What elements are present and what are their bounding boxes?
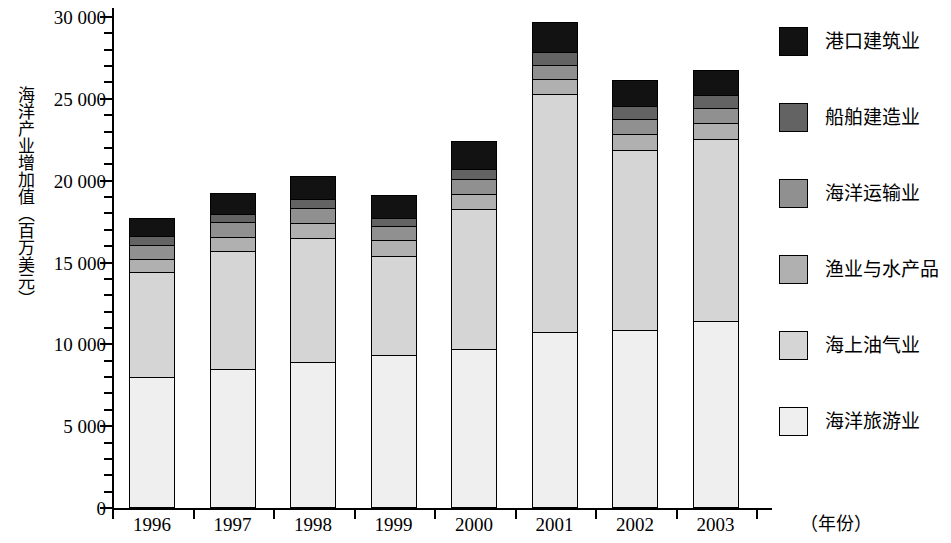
bar-2000[interactable] bbox=[451, 141, 497, 508]
y-axis-minor-tick bbox=[104, 131, 112, 133]
y-axis-minor-tick bbox=[104, 392, 112, 394]
bar-segment[interactable] bbox=[290, 223, 336, 238]
bar-segment[interactable] bbox=[371, 218, 417, 226]
x-axis-title: （年份） bbox=[800, 513, 872, 535]
bar-segment[interactable] bbox=[532, 332, 578, 508]
y-axis-minor-tick bbox=[104, 114, 112, 116]
bar-2003[interactable] bbox=[693, 70, 739, 508]
bar-segment[interactable] bbox=[210, 193, 256, 214]
bar-segment[interactable] bbox=[290, 238, 336, 362]
bar-segment[interactable] bbox=[210, 369, 256, 508]
bar-segment[interactable] bbox=[451, 209, 497, 350]
y-axis-tick-label: 30 000 bbox=[20, 8, 106, 27]
bar-segment[interactable] bbox=[371, 256, 417, 355]
x-axis-tick-label: 2000 bbox=[434, 514, 514, 536]
bar-segment[interactable] bbox=[451, 194, 497, 209]
legend-item-label: 港口建筑业 bbox=[825, 32, 920, 51]
bar-segment[interactable] bbox=[612, 119, 658, 134]
bar-segment[interactable] bbox=[532, 65, 578, 80]
bar-segment[interactable] bbox=[532, 94, 578, 332]
y-axis-minor-tick bbox=[104, 474, 112, 476]
y-axis-line bbox=[112, 8, 114, 508]
bar-segment[interactable] bbox=[210, 251, 256, 369]
y-axis-tick-label: 20 000 bbox=[20, 172, 106, 191]
y-axis-minor-tick bbox=[104, 245, 112, 247]
y-axis-tick-labels: 05 00010 00015 00020 00025 00030 000 bbox=[20, 0, 106, 543]
bar-segment[interactable] bbox=[290, 362, 336, 508]
legend-item[interactable]: 海洋旅游业 bbox=[779, 406, 920, 436]
bar-segment[interactable] bbox=[693, 95, 739, 108]
legend-swatch-icon bbox=[779, 331, 808, 360]
bar-segment[interactable] bbox=[532, 22, 578, 52]
bar-segment[interactable] bbox=[693, 123, 739, 139]
bar-segment[interactable] bbox=[612, 150, 658, 331]
bar-1996[interactable] bbox=[129, 218, 175, 508]
y-axis-minor-tick bbox=[104, 278, 112, 280]
legend-item[interactable]: 海上油气业 bbox=[779, 330, 920, 360]
bar-segment[interactable] bbox=[612, 330, 658, 508]
bar-segment[interactable] bbox=[129, 245, 175, 260]
legend-item[interactable]: 渔业与水产品 bbox=[779, 254, 939, 284]
legend-item[interactable]: 船舶建造业 bbox=[779, 102, 920, 132]
x-axis-tick-label: 2002 bbox=[595, 514, 675, 536]
y-axis-minor-tick bbox=[104, 49, 112, 51]
bar-segment[interactable] bbox=[290, 176, 336, 199]
bar-segment[interactable] bbox=[532, 79, 578, 94]
legend-item[interactable]: 海洋运输业 bbox=[779, 178, 920, 208]
bar-segment[interactable] bbox=[129, 218, 175, 236]
bar-segment[interactable] bbox=[371, 226, 417, 241]
y-axis-tick-label: 25 000 bbox=[20, 90, 106, 109]
legend-item-label: 船舶建造业 bbox=[825, 108, 920, 127]
bar-segment[interactable] bbox=[693, 108, 739, 123]
legend-swatch-icon bbox=[779, 103, 808, 132]
y-axis-major-tick bbox=[100, 507, 112, 509]
y-axis-minor-tick bbox=[104, 212, 112, 214]
y-axis-minor-tick bbox=[104, 491, 112, 493]
plot-area bbox=[112, 17, 761, 508]
bar-2002[interactable] bbox=[612, 80, 658, 508]
y-axis-major-tick bbox=[100, 16, 112, 18]
y-axis-major-tick bbox=[100, 425, 112, 427]
y-axis-minor-tick bbox=[104, 360, 112, 362]
y-axis-minor-tick bbox=[104, 163, 112, 165]
bar-segment[interactable] bbox=[210, 214, 256, 222]
bar-segment[interactable] bbox=[210, 222, 256, 237]
bar-segment[interactable] bbox=[693, 70, 739, 95]
bar-segment[interactable] bbox=[290, 208, 336, 224]
bar-segment[interactable] bbox=[693, 321, 739, 508]
legend-item[interactable]: 港口建筑业 bbox=[779, 26, 920, 56]
x-axis-tick-label: 1996 bbox=[112, 514, 192, 536]
bar-segment[interactable] bbox=[612, 106, 658, 119]
y-axis-minor-tick bbox=[104, 376, 112, 378]
bar-segment[interactable] bbox=[129, 377, 175, 508]
bar-segment[interactable] bbox=[371, 355, 417, 508]
legend-item-label: 海上油气业 bbox=[825, 336, 920, 355]
bar-segment[interactable] bbox=[532, 52, 578, 64]
bar-segment[interactable] bbox=[210, 237, 256, 251]
bar-1997[interactable] bbox=[210, 193, 256, 508]
bar-segment[interactable] bbox=[612, 134, 658, 150]
legend-swatch-icon bbox=[779, 407, 808, 436]
y-axis-minor-tick bbox=[104, 81, 112, 83]
bar-segment[interactable] bbox=[451, 179, 497, 194]
bar-segment[interactable] bbox=[451, 349, 497, 508]
bar-1999[interactable] bbox=[371, 195, 417, 508]
bar-segment[interactable] bbox=[129, 272, 175, 377]
x-axis-tick-label: 2001 bbox=[515, 514, 595, 536]
bar-segment[interactable] bbox=[451, 169, 497, 179]
legend-swatch-icon bbox=[779, 255, 808, 284]
y-axis-tick-label: 15 000 bbox=[20, 254, 106, 273]
bar-segment[interactable] bbox=[693, 139, 739, 321]
bar-2001[interactable] bbox=[532, 22, 578, 508]
bar-segment[interactable] bbox=[612, 80, 658, 106]
y-axis-minor-tick bbox=[104, 32, 112, 34]
bar-segment[interactable] bbox=[451, 141, 497, 169]
bar-segment[interactable] bbox=[129, 236, 175, 244]
bar-segment[interactable] bbox=[290, 199, 336, 208]
bar-segment[interactable] bbox=[371, 195, 417, 218]
bar-segment[interactable] bbox=[129, 259, 175, 272]
bar-1998[interactable] bbox=[290, 176, 336, 508]
bar-segment[interactable] bbox=[371, 240, 417, 256]
legend-swatch-icon bbox=[779, 27, 808, 56]
y-axis-minor-tick bbox=[104, 409, 112, 411]
